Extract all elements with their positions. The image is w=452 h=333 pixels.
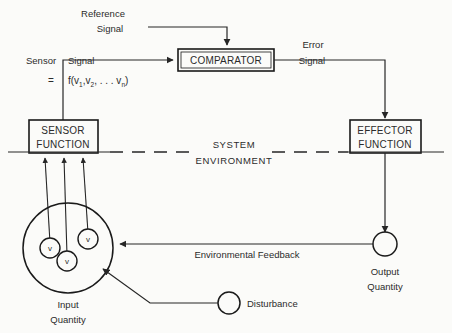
- diagram-svg: Reference Signal COMPARATOR Error Signal…: [0, 0, 452, 333]
- output-quantity-label-line1: Output: [371, 266, 400, 277]
- effector-function-label-line1: EFFECTOR: [357, 125, 412, 136]
- variable-node-1-label: v: [48, 244, 52, 253]
- input-quantity-circle[interactable]: [23, 203, 113, 293]
- variable-node-2-label: v: [65, 257, 69, 266]
- formula-equals: =: [48, 75, 54, 86]
- sensor-signal-wire: [63, 60, 173, 122]
- formula-dots: , . . . v: [94, 75, 121, 86]
- formula-close: ): [125, 75, 128, 86]
- diagram-canvas: Reference Signal COMPARATOR Error Signal…: [0, 0, 452, 333]
- error-signal-label-line2: Signal: [299, 55, 325, 66]
- signal-word-label: Signal: [68, 55, 94, 66]
- disturbance-label: Disturbance: [247, 298, 298, 309]
- reference-signal-wire: [148, 27, 227, 45]
- system-environment-label-line2: ENVIRONMENT: [196, 155, 273, 166]
- disturbance-circle[interactable]: [218, 292, 240, 314]
- reference-signal-label-line2: Signal: [97, 23, 123, 34]
- input-quantity-label-line2: Quantity: [50, 314, 86, 325]
- output-quantity-circle[interactable]: [373, 232, 397, 256]
- system-environment-label-line1: SYSTEM: [213, 139, 256, 150]
- formula-comma1: ,v: [83, 75, 91, 86]
- input-quantity-label-line1: Input: [57, 299, 78, 310]
- sensor-word-label: Sensor: [26, 55, 56, 66]
- reference-signal-label-line1: Reference: [81, 8, 125, 19]
- sensor-function-label-line2: FUNCTION: [36, 139, 89, 150]
- variable-node-3-label: v: [86, 235, 90, 244]
- effector-function-label-line2: FUNCTION: [358, 139, 411, 150]
- formula-expression: f(v1,v2, . . . vn): [68, 75, 128, 88]
- disturbance-wire: [103, 269, 218, 303]
- error-signal-wire: [274, 60, 385, 118]
- formula-fn: f(v: [68, 75, 79, 86]
- environmental-feedback-label: Environmental Feedback: [194, 249, 299, 260]
- output-quantity-label-line2: Quantity: [367, 281, 403, 292]
- comparator-label: COMPARATOR: [190, 55, 262, 66]
- sensor-function-label-line1: SENSOR: [41, 125, 84, 136]
- error-signal-label-line1: Error: [302, 39, 323, 50]
